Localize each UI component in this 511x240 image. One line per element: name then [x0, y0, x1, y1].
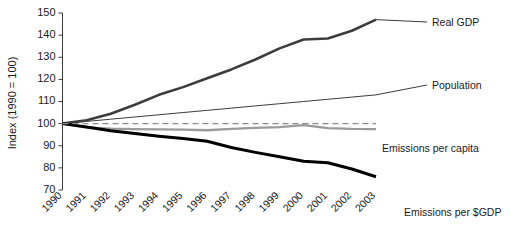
y-tick-label: 100 — [37, 117, 55, 129]
line-chart: Index (1990 = 100) 708090100110120130140… — [0, 0, 511, 240]
series-label-real-gdp: Real GDP — [432, 16, 479, 28]
chart-container: Index (1990 = 100) 708090100110120130140… — [0, 0, 511, 240]
y-tick-label: 80 — [43, 161, 55, 173]
y-tick-label: 90 — [43, 139, 55, 151]
series-label-emissions-per-gdp: Emissions per $GDP — [404, 206, 501, 218]
x-tick-label-2003: 2003 — [352, 189, 377, 214]
y-axis-ticks: 708090100110120130140150 — [37, 6, 62, 195]
leader-line — [376, 20, 427, 22]
y-tick-label: 140 — [37, 28, 55, 40]
y-tick-label: 130 — [37, 50, 55, 62]
x-axis-ticks: 1990199119921993199419951996199719981999… — [39, 189, 378, 214]
x-tick-label-2000: 2000 — [280, 189, 305, 214]
y-tick-label: 150 — [37, 6, 55, 18]
series-line-population — [63, 95, 377, 124]
y-tick-label: 110 — [38, 94, 56, 106]
series-line-emissions-per-gdp — [63, 124, 377, 177]
x-tick-label-1999: 1999 — [256, 189, 281, 214]
series-labels: Real GDPPopulationEmissions per capitaEm… — [376, 16, 501, 218]
x-tick-label-1995: 1995 — [159, 189, 184, 214]
x-tick-label-1993: 1993 — [111, 189, 136, 214]
series-line-real-gdp — [63, 20, 377, 124]
x-tick-label-2001: 2001 — [304, 189, 329, 214]
x-tick-label-1997: 1997 — [208, 189, 233, 214]
series-lines — [63, 20, 377, 177]
x-tick-label-1992: 1992 — [87, 189, 112, 214]
x-tick-label-1994: 1994 — [135, 189, 160, 214]
series-label-population: Population — [432, 79, 482, 91]
x-tick-label-1996: 1996 — [184, 189, 209, 214]
x-tick-label-2002: 2002 — [328, 189, 353, 214]
x-tick-label-1991: 1991 — [63, 189, 88, 214]
leader-line — [376, 85, 427, 95]
y-axis-title-group: Index (1990 = 100) — [6, 57, 18, 150]
series-label-emissions-per-capita: Emissions per capita — [382, 142, 479, 154]
y-tick-label: 120 — [37, 72, 55, 84]
x-tick-label-1998: 1998 — [232, 189, 257, 214]
y-axis-title: Index (1990 = 100) — [6, 57, 18, 150]
